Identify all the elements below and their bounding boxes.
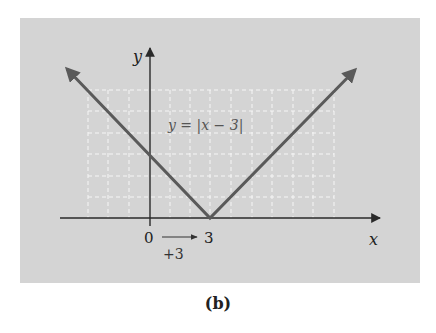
shift-annotation: +3 [163, 246, 184, 262]
plot-background [20, 18, 420, 283]
figure-caption: (b) [0, 294, 436, 313]
x-axis-label: x [369, 230, 378, 249]
equation-label: y = |x − 3| [167, 117, 243, 134]
figure: y x y = |x − 3| 0 3 +3 [0, 0, 436, 333]
tick-label-0: 0 [144, 229, 154, 247]
y-axis-label: y [132, 47, 143, 66]
tick-label-3: 3 [204, 229, 214, 247]
